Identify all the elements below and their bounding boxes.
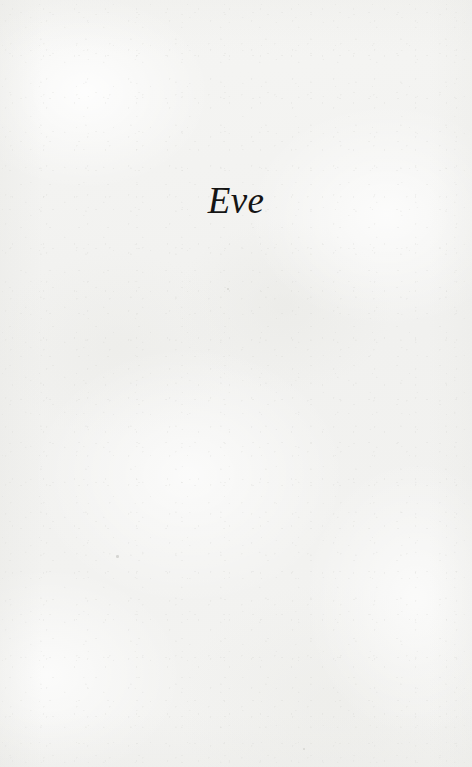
page-title: Eve — [208, 182, 265, 219]
scan-vignette — [0, 0, 472, 767]
paper-speck-left — [116, 555, 119, 558]
paper-speck-lower — [303, 748, 305, 750]
book-page: Eve — [0, 0, 472, 767]
paper-grain-texture — [0, 0, 472, 767]
part-title-block: Eve — [0, 182, 472, 219]
paper-speck-upper — [227, 288, 229, 290]
